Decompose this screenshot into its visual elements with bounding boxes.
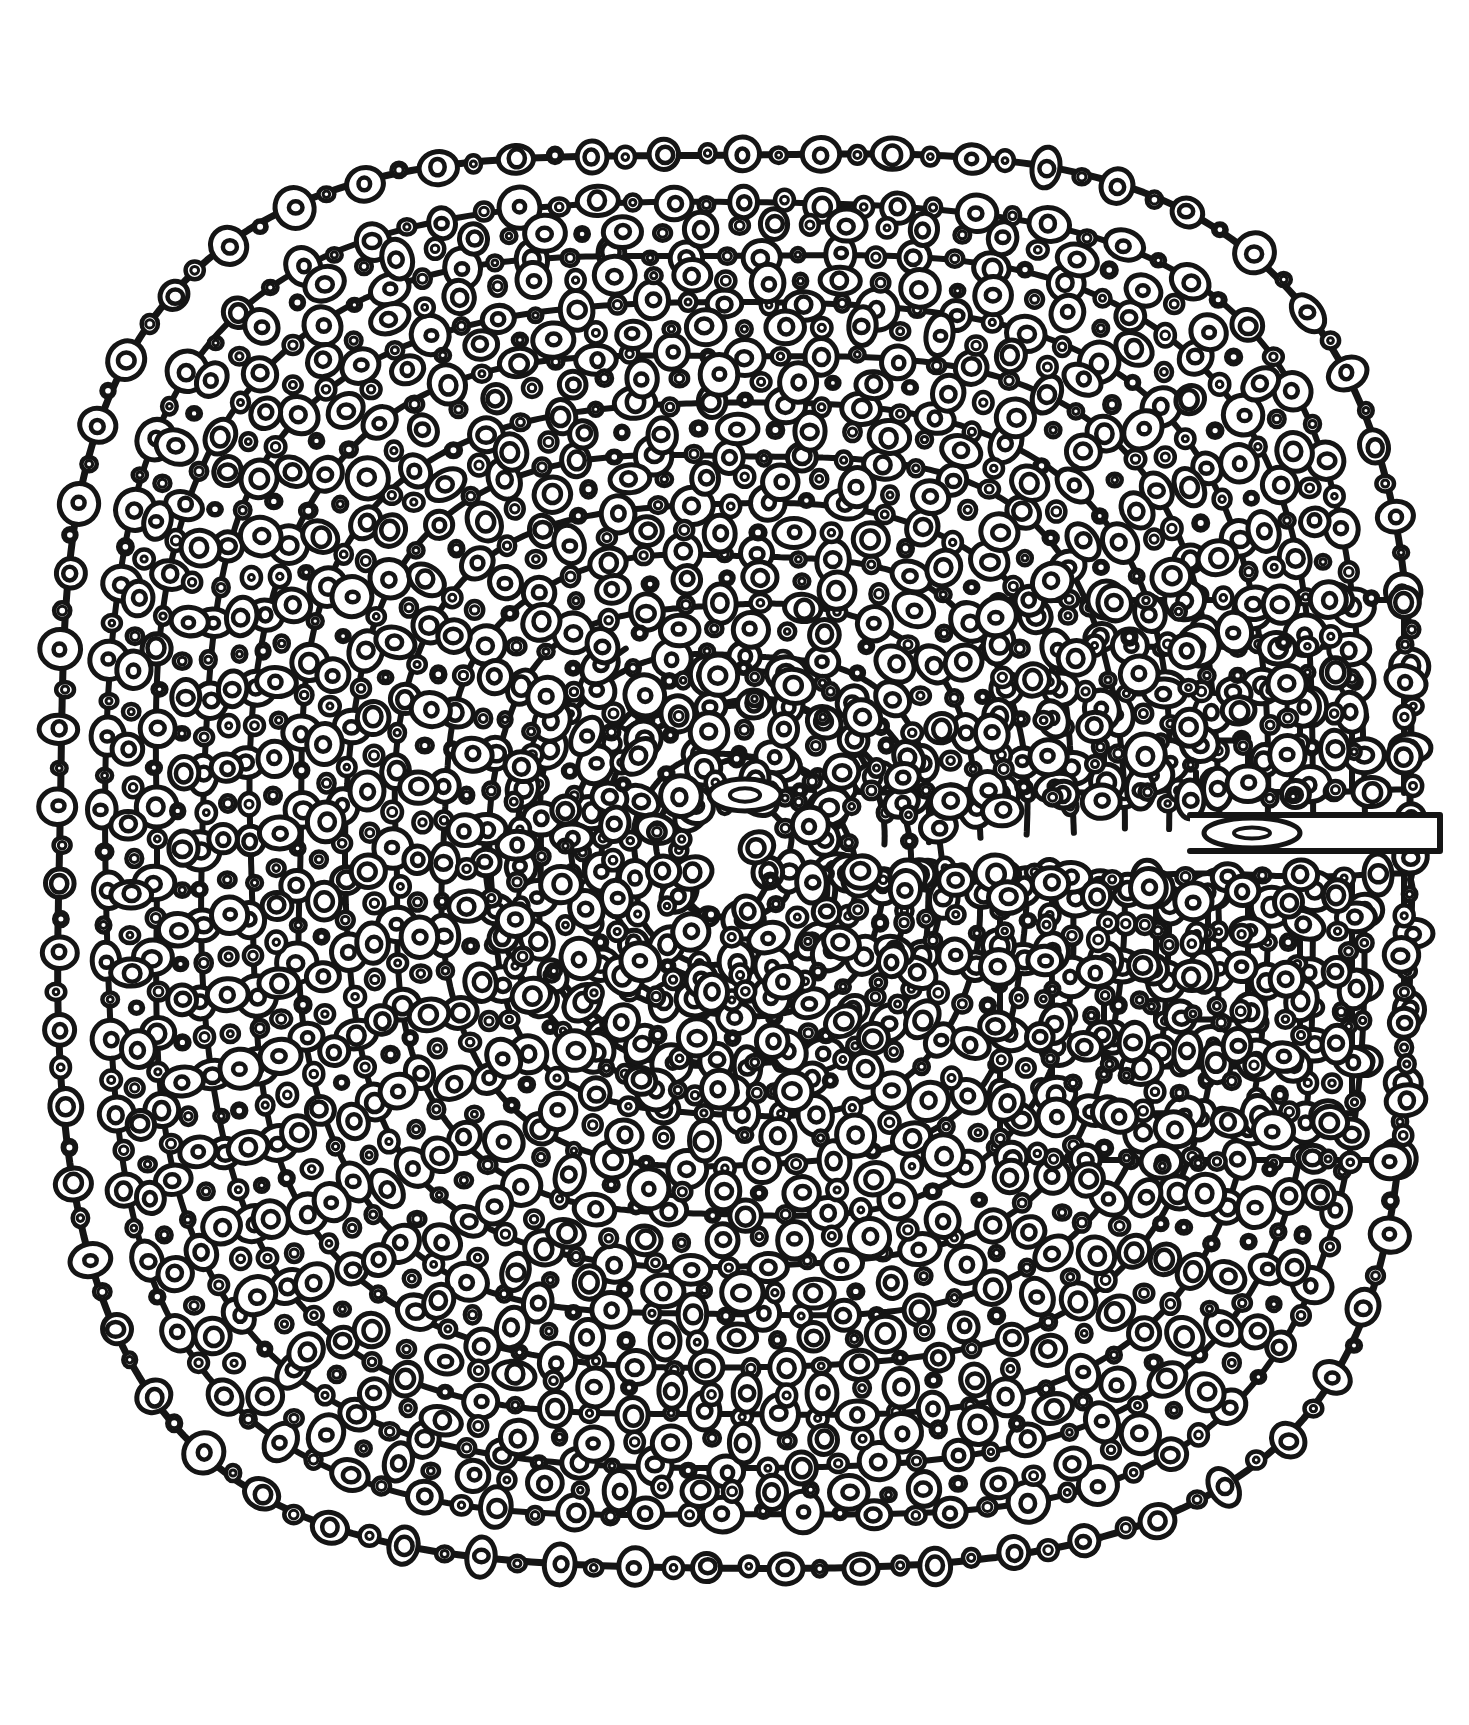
center-goal-marker	[709, 779, 781, 811]
coloring-page-canvas	[0, 0, 1469, 1725]
entrance-tab	[1190, 815, 1440, 851]
labyrinth-artwork	[0, 0, 1469, 1725]
